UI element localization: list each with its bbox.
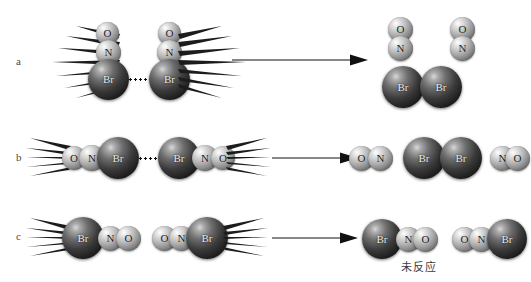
reaction-arrow-c — [272, 230, 358, 246]
atom-nitrogen: N — [388, 36, 413, 61]
reaction-arrow-a — [232, 52, 368, 68]
atom-oxygen: O — [505, 146, 530, 171]
atom-bromine: Br — [186, 217, 228, 259]
cut-off-header-text: 一一一一一一一一一一一一一一一一一一一一一一一一一一一一一一 — [0, 0, 531, 7]
atom-bromine: Br — [88, 59, 129, 100]
reaction-orientation-diagram: 一一一一一一一一一一一一一一一一一一一一一一一一一一一一一一 a O N Br … — [0, 0, 531, 282]
motion-spikes-c-right — [222, 216, 268, 258]
atom-bromine: Br — [403, 137, 445, 179]
atom-bromine: Br — [382, 66, 424, 108]
atom-oxygen: O — [116, 226, 141, 251]
reaction-arrow-b — [272, 150, 358, 166]
atom-bromine: Br — [420, 66, 462, 108]
row-label-a: a — [16, 55, 21, 67]
atom-oxygen: O — [211, 146, 235, 170]
atom-nitrogen: N — [450, 36, 475, 61]
cut-off-header-fragment: 一一一一一一一一一一一一一一一一一一一一一一一一一一一一一一 — [2, 0, 347, 7]
atom-nitrogen: N — [368, 146, 393, 171]
atom-bromine: Br — [97, 137, 139, 179]
row-label-b: b — [16, 151, 22, 163]
atom-oxygen: O — [413, 227, 438, 252]
atom-bromine: Br — [440, 137, 482, 179]
collision-bond-b — [138, 157, 160, 160]
atom-bromine: Br — [149, 59, 190, 100]
no-reaction-caption: 未反应 — [401, 258, 437, 274]
collision-bond-a — [128, 78, 150, 81]
row-label-c: c — [16, 230, 21, 242]
atom-bromine: Br — [487, 219, 527, 259]
